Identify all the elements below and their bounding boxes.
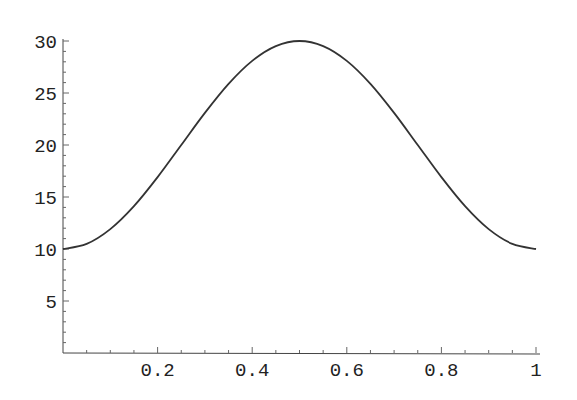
x-tick-label: 1 xyxy=(530,360,541,382)
axes xyxy=(63,39,540,354)
x-tick-label: 0.4 xyxy=(235,360,269,382)
data-line xyxy=(63,41,536,249)
chart: 0.20.40.60.8151015202530 xyxy=(0,0,577,400)
y-tick-label: 30 xyxy=(34,32,57,54)
x-tick-label: 0.2 xyxy=(140,360,174,382)
ticks xyxy=(63,41,536,353)
x-axis xyxy=(63,353,540,354)
x-tick-label: 0.8 xyxy=(424,360,458,382)
y-tick-label: 15 xyxy=(34,188,57,210)
y-tick-label: 20 xyxy=(34,136,57,158)
y-tick-label: 5 xyxy=(46,292,57,314)
y-tick-label: 25 xyxy=(34,84,57,106)
y-tick-label: 10 xyxy=(34,240,57,262)
x-tick-label: 0.6 xyxy=(330,360,364,382)
